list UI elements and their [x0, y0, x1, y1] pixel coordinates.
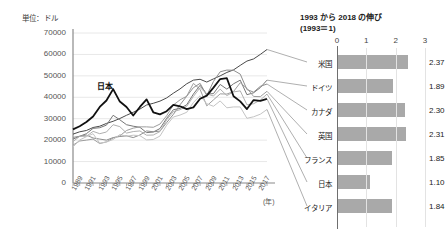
bar-rect	[338, 55, 408, 69]
line-chart-gridlines	[73, 33, 267, 162]
bar-category-label: 米国	[300, 58, 332, 69]
bar-value-label: 2.31	[429, 130, 445, 139]
series-label-japan: 日本	[97, 80, 113, 91]
bar-gridline	[366, 48, 367, 227]
growth-bar-chart: 1993 から 2018 の伸び (1993＝1) 0123 米国2.37ドイツ…	[300, 0, 439, 235]
series-line-日本	[73, 78, 267, 129]
y-tick-label: 20000	[18, 136, 66, 144]
x-tick-label: 2015	[244, 175, 258, 192]
y-tick-label: 10000	[18, 158, 66, 166]
bar-value-label: 2.37	[429, 58, 445, 67]
y-tick-label: 50000	[18, 72, 66, 80]
bar-category-label: ドイツ	[300, 82, 332, 93]
x-tick-label: 2007	[190, 175, 204, 192]
series-line-米国	[73, 50, 267, 135]
bar-chart-title-line1: 1993 から 2018 の伸び	[300, 12, 382, 23]
y-tick-label: 30000	[18, 115, 66, 123]
x-tick-label: 1993	[97, 175, 111, 192]
x-tick-label: 2001	[150, 175, 164, 192]
y-tick-label: 70000	[18, 29, 66, 37]
bar-category-label: 日本	[300, 178, 332, 189]
series-line-イタリア	[73, 96, 267, 147]
bar-value-label: 1.89	[429, 82, 445, 91]
x-tick-label: 1991	[83, 175, 97, 192]
bar-value-label: 1.84	[429, 202, 445, 211]
bar-axis-tick-label: 1	[364, 36, 368, 45]
bar-value-label: 2.30	[429, 106, 445, 115]
line-chart-axes	[73, 29, 275, 186]
bar-category-label: カナダ	[300, 106, 332, 117]
bar-gridline	[396, 48, 397, 227]
bar-chart-title: 1993 から 2018 の伸び (1993＝1)	[300, 12, 382, 34]
bar-axis-tick-label: 0	[335, 36, 339, 45]
bar-axis-baseline	[337, 46, 338, 229]
line-chart-series	[73, 50, 267, 148]
y-tick-label: 60000	[18, 50, 66, 58]
y-axis-unit-label: 単位：ドル	[22, 12, 58, 23]
x-axis-unit-label: (年)	[263, 196, 275, 206]
x-tick-label: 2017	[257, 175, 271, 192]
bar-category-label: フランス	[300, 154, 332, 165]
bar-value-label: 1.85	[429, 154, 445, 163]
y-tick-label: 0	[18, 179, 66, 187]
x-tick-label: 2009	[204, 175, 218, 192]
series-line-ドイツ	[73, 80, 267, 139]
bar-category-label: イタリア	[300, 202, 332, 213]
bar-axis-tick-label: 3	[423, 36, 427, 45]
series-line-英国	[73, 83, 267, 145]
x-tick-label: 2011	[217, 175, 231, 192]
bar-axis-tick-label: 2	[393, 36, 397, 45]
x-tick-label: 1989	[70, 175, 84, 192]
series-line-フランス	[73, 88, 267, 142]
bar-rect	[338, 199, 392, 213]
y-tick-label: 40000	[18, 93, 66, 101]
bar-category-label: 英国	[300, 130, 332, 141]
x-tick-label: 2005	[177, 175, 191, 192]
bar-value-label: 1.10	[429, 178, 445, 187]
x-tick-label: 2003	[164, 175, 178, 192]
x-tick-label: 1997	[124, 175, 138, 192]
x-tick-label: 2013	[231, 175, 245, 192]
x-tick-label: 1999	[137, 175, 151, 192]
bar-gridline	[425, 48, 426, 227]
x-tick-label: 1995	[110, 175, 124, 192]
bar-rect	[338, 151, 392, 165]
bar-chart-title-line2: (1993＝1)	[300, 23, 382, 34]
series-line-カナダ	[73, 70, 267, 140]
